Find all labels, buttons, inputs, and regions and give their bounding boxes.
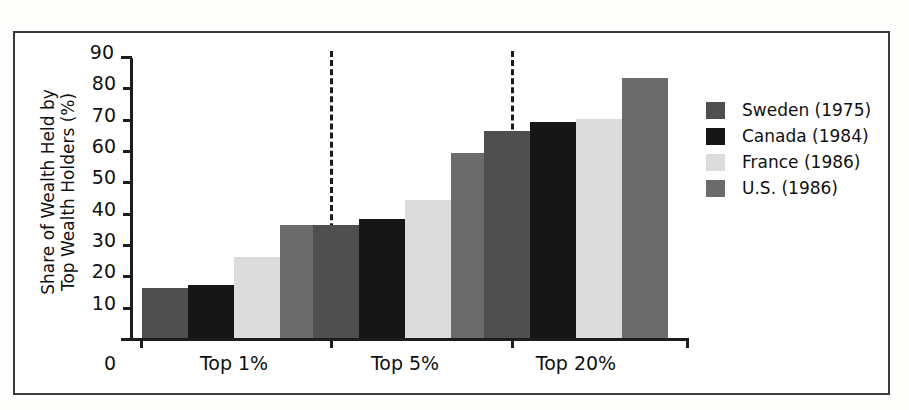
y-axis-tick-label-80: 80: [82, 74, 116, 93]
y-axis-tick-label-70: 70: [82, 106, 116, 125]
legend-item-u-s-1986: U.S. (1986): [706, 175, 881, 201]
legend-swatch-2: [706, 128, 725, 145]
legend-swatch-3: [706, 154, 725, 171]
bar-series-container: [130, 52, 690, 341]
bar-top-20-canada-1984: [530, 122, 576, 338]
legend-item-france-1986: France (1986): [706, 149, 881, 175]
y-axis-title-line-2: Top Wealth Holders (%): [58, 93, 78, 291]
y-axis-tick-label-20: 20: [82, 262, 116, 281]
bar-top-20-sweden-1975: [484, 131, 530, 338]
x-axis-group-label-2: Top 5%: [371, 352, 439, 374]
legend-label-1: Sweden (1975): [742, 100, 871, 120]
y-axis-tick-label-30: 30: [82, 231, 116, 250]
y-axis-title: Share of Wealth Held by Top Wealth Holde…: [28, 52, 88, 332]
y-axis-zero-label: 0: [104, 352, 116, 374]
bar-top-5-sweden-1975: [313, 225, 359, 338]
legend-item-sweden-1975: Sweden (1975): [706, 97, 881, 123]
y-axis-tick-label-90: 90: [80, 43, 114, 62]
bar-top-1-canada-1984: [188, 285, 234, 338]
bar-top-5-canada-1984: [359, 219, 405, 338]
legend-label-2: Canada (1984): [742, 126, 869, 146]
x-axis-group-label-1: Top 1%: [200, 352, 268, 374]
legend-swatch-4: [706, 180, 725, 197]
y-axis-tick-label-60: 60: [82, 137, 116, 156]
y-axis-tick-label-10: 10: [82, 294, 116, 313]
chart-legend: Sweden (1975)Canada (1984)France (1986)U…: [706, 97, 881, 201]
bar-top-5-france-1986: [405, 200, 451, 338]
bar-top-1-france-1986: [234, 257, 280, 338]
legend-label-4: U.S. (1986): [742, 178, 838, 198]
bar-top-1-sweden-1975: [142, 288, 188, 338]
y-axis-title-line-1: Share of Wealth Held by: [38, 89, 58, 295]
plot-area: 908070605040302010 0 Top 1%Top 5%Top 20%: [130, 52, 690, 344]
y-axis-tick-label-40: 40: [82, 200, 116, 219]
y-axis-tick-label-50: 50: [82, 168, 116, 187]
bar-top-20-u-s-1986: [622, 78, 668, 338]
legend-label-3: France (1986): [742, 152, 860, 172]
legend-item-canada-1984: Canada (1984): [706, 123, 881, 149]
bar-top-20-france-1986: [576, 119, 622, 338]
legend-swatch-1: [706, 102, 725, 119]
figure-canvas: Share of Wealth Held by Top Wealth Holde…: [0, 0, 909, 410]
x-axis-group-label-3: Top 20%: [536, 352, 616, 374]
